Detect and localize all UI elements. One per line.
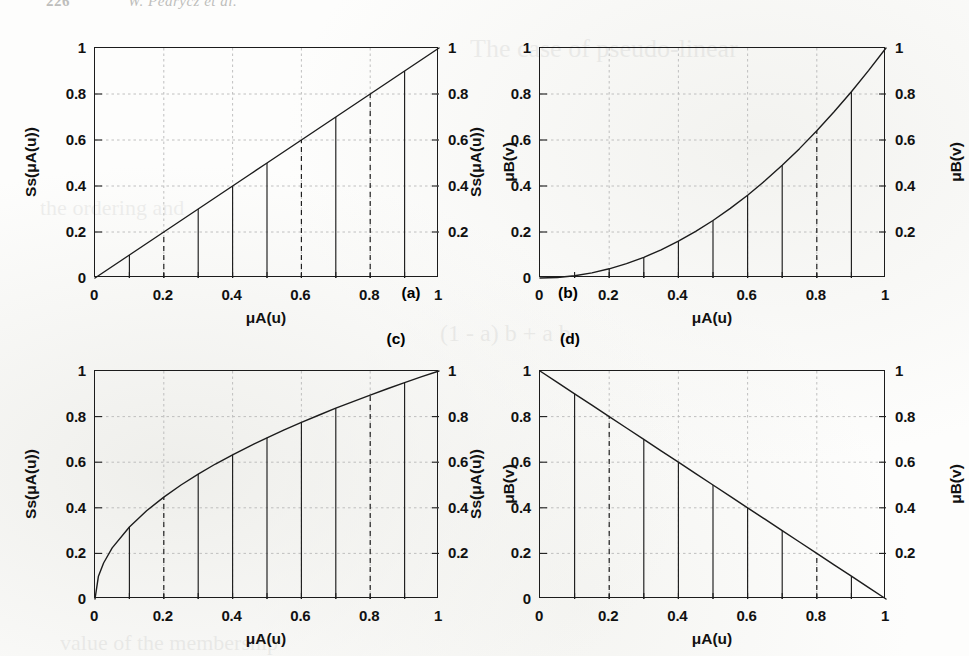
droplines-d [575,394,852,599]
y-tick-label-left: 1 [493,362,531,379]
x-tick-label: 0.8 [806,286,826,303]
x-tick-label: 0.4 [667,286,687,303]
y-tick-label-left: 0 [493,590,531,607]
y-tick-label-left: 0.2 [493,544,531,561]
plot-canvas-a [95,48,439,278]
page-header: 226 W. Pedrycz et al. [0,0,969,9]
y-tick-label-left: 0.8 [48,85,86,102]
x-tick-label: 1 [881,607,889,624]
x-tick-label: 0.2 [598,286,618,303]
x-tick-label: 1 [434,607,442,624]
y-tick-label-left: 0.6 [493,131,531,148]
y-tick-label-right: 0.6 [895,453,915,470]
y-axis-title-left: Ss(μA(u)) [467,449,485,519]
x-tick-label: 0 [535,286,543,303]
plot-area-d [539,370,885,598]
x-tick-label: 0.8 [806,607,826,624]
y-tick-label-left: 0.6 [493,453,531,470]
y-tick-label-right: 0.8 [895,407,915,424]
panel-caption-d: (d) [560,330,580,348]
y-tick-label-left: 0.8 [48,407,86,424]
y-tick-label-right: 0.2 [895,544,915,561]
y-tick-label-right: 0.8 [895,85,915,102]
droplines-a [129,71,404,278]
y-axis-title-right: μB(v) [947,142,965,182]
y-tick-label-right: 0.2 [448,544,468,561]
y-tick-label-right: 0.4 [895,177,915,194]
y-tick-label-left: 1 [493,39,531,56]
y-tick-label-right: 1 [895,39,903,56]
panel-caption-c: (c) [387,330,406,348]
x-tick-label: 0.6 [290,607,310,624]
y-tick-label-right: 0.2 [895,223,915,240]
y-axis-title-left: Ss(μA(u)) [22,449,40,519]
page-folio: 226 [46,0,70,9]
x-tick-label: 0.6 [736,607,756,624]
y-tick-label-left: 0.4 [48,177,86,194]
droplines-b [575,92,852,278]
running-head: W. Pedrycz et al. [128,0,237,9]
x-tick-label: 0.4 [221,286,241,303]
x-tick-label: 0 [90,607,98,624]
plot-canvas-d [540,371,886,599]
y-tick-label-left: 0 [493,269,531,286]
y-tick-label-left: 0.4 [493,498,531,515]
x-tick-label: 0.6 [290,286,310,303]
plot-canvas-b [540,48,886,278]
y-tick-label-right: 0.4 [448,498,468,515]
plot-area-a [94,47,438,277]
x-tick-label: 1 [434,286,442,303]
x-tick-label: 0.8 [359,607,379,624]
x-tick-label: 0.4 [667,607,687,624]
y-tick-label-left: 0.8 [493,407,531,424]
x-tick-label: 0.8 [359,286,379,303]
y-tick-label-left: 1 [48,362,86,379]
x-tick-label: 0.2 [598,607,618,624]
y-tick-label-left: 0.4 [48,498,86,515]
plot-canvas-c [95,371,439,599]
panel-caption-b: (b) [558,284,578,302]
x-axis-title: μA(u) [692,630,732,648]
x-tick-label: 0 [90,286,98,303]
y-tick-label-right: 0.8 [448,85,468,102]
y-tick-label-right: 1 [448,362,456,379]
x-tick-label: 0 [535,607,543,624]
y-axis-title-left: Ss(μA(u)) [22,127,40,197]
bleed-through-text: (1 - a) b + a b [440,320,571,347]
plot-area-b [539,47,885,277]
x-tick-label: 0.4 [221,607,241,624]
y-tick-label-right: 0.6 [448,453,468,470]
y-tick-label-right: 0.6 [895,131,915,148]
y-tick-label-right: 0.4 [895,498,915,515]
x-axis-title: μA(u) [692,309,732,327]
plot-area-c [94,370,438,598]
y-tick-label-right: 0.2 [448,223,468,240]
panel-caption-a: (a) [402,284,421,302]
y-tick-label-left: 0.2 [48,544,86,561]
y-tick-label-left: 0.6 [48,131,86,148]
y-tick-label-left: 0.2 [493,223,531,240]
y-tick-label-left: 0.2 [48,223,86,240]
y-axis-title-left: Ss(μA(u)) [467,127,485,197]
x-axis-title: μA(u) [246,630,286,648]
y-tick-label-right: 0.6 [448,131,468,148]
y-axis-title-right: μB(v) [947,464,965,504]
x-tick-label: 1 [881,286,889,303]
x-tick-label: 0.2 [153,286,173,303]
y-tick-label-left: 0.8 [493,85,531,102]
y-tick-label-left: 0.4 [493,177,531,194]
y-tick-label-right: 0.4 [448,177,468,194]
y-tick-label-left: 0 [48,269,86,286]
y-tick-label-right: 0.8 [448,407,468,424]
x-axis-title: μA(u) [246,309,286,327]
droplines-c [129,383,404,599]
y-tick-label-left: 0 [48,590,86,607]
y-tick-label-right: 1 [448,39,456,56]
x-tick-label: 0.6 [736,286,756,303]
y-tick-label-left: 1 [48,39,86,56]
y-tick-label-left: 0.6 [48,453,86,470]
y-tick-label-right: 1 [895,362,903,379]
x-tick-label: 0.2 [153,607,173,624]
